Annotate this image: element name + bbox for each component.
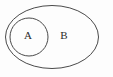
set-b-label: B <box>60 29 67 41</box>
set-a-label: A <box>24 29 32 41</box>
euler-diagram-figure: A B <box>0 0 113 77</box>
venn-diagram-canvas: A B <box>0 0 113 77</box>
